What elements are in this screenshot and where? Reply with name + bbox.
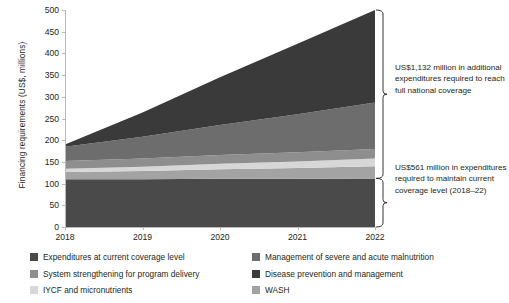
stacked-area-series (65, 10, 375, 227)
y-tick (62, 140, 65, 141)
chart-legend: Expenditures at current coverage levelMa… (30, 249, 502, 299)
callout-maintain-current-coverage: US$561 million in expenditures required … (395, 162, 507, 196)
legend-item[interactable]: Disease prevention and management (252, 269, 502, 279)
y-tick-label: 250 (45, 114, 59, 124)
y-axis-title: Financing requirements (US$, millions) (17, 15, 27, 215)
legend-item[interactable]: Expenditures at current coverage level (30, 252, 252, 262)
y-tick (62, 119, 65, 120)
legend-item[interactable]: Management of severe and acute malnutrit… (252, 252, 502, 262)
legend-swatch-icon (252, 253, 260, 261)
x-tick-label: 2021 (288, 232, 307, 242)
y-tick (62, 32, 65, 33)
legend-label: System strengthening for program deliver… (43, 269, 199, 279)
plot-area: 050100150200250300350400450500 201820192… (65, 10, 375, 227)
y-tick-label: 400 (45, 48, 59, 58)
y-tick-label: 0 (54, 222, 59, 232)
y-axis-line (65, 10, 66, 227)
legend-item[interactable]: WASH (252, 285, 502, 295)
x-tick (298, 227, 299, 230)
y-tick-label: 350 (45, 70, 59, 80)
x-tick (143, 227, 144, 230)
legend-label: Expenditures at current coverage level (43, 252, 185, 262)
y-tick-label: 100 (45, 179, 59, 189)
y-tick (62, 75, 65, 76)
y-tick (62, 184, 65, 185)
y-tick-label: 500 (45, 5, 59, 15)
legend-swatch-icon (30, 253, 38, 261)
x-tick-label: 2019 (133, 232, 152, 242)
callout-additional-expenditures: US$1,132 million in additional expenditu… (395, 62, 507, 96)
y-tick (62, 162, 65, 163)
legend-swatch-icon (30, 286, 38, 294)
y-tick-label: 150 (45, 157, 59, 167)
legend-label: WASH (265, 285, 290, 295)
x-tick-label: 2020 (210, 232, 229, 242)
x-tick (220, 227, 221, 230)
y-tick-label: 300 (45, 92, 59, 102)
y-tick-label: 200 (45, 135, 59, 145)
chart-figure: Financing requirements (US$, millions) 0… (0, 0, 509, 303)
legend-swatch-icon (30, 270, 38, 278)
legend-item[interactable]: System strengthening for program deliver… (30, 269, 252, 279)
y-tick (62, 97, 65, 98)
y-tick-label: 450 (45, 27, 59, 37)
x-tick (65, 227, 66, 230)
legend-item[interactable]: IYCF and micronutrients (30, 285, 252, 295)
legend-swatch-icon (252, 270, 260, 278)
legend-label: IYCF and micronutrients (43, 285, 132, 295)
y-tick (62, 53, 65, 54)
legend-swatch-icon (252, 286, 260, 294)
y-tick-label: 50 (49, 200, 59, 210)
y-tick (62, 205, 65, 206)
annotation-brackets (375, 4, 389, 236)
x-tick-label: 2018 (55, 232, 74, 242)
y-tick (62, 10, 65, 11)
legend-label: Management of severe and acute malnutrit… (265, 252, 434, 262)
legend-label: Disease prevention and management (265, 269, 403, 279)
area-band (65, 178, 375, 227)
